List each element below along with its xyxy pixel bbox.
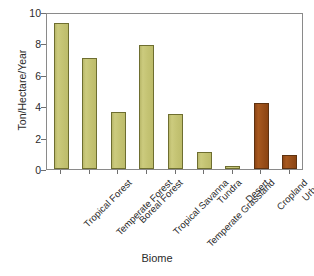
x-tick-mark	[146, 170, 147, 174]
plot-area	[46, 13, 303, 170]
chart-figure: Ton/Hectare/Year 0246810 Tropical Forest…	[0, 0, 314, 276]
y-tick-mark	[41, 170, 46, 171]
x-tick-mark	[260, 170, 261, 174]
bar-tropical-savanna	[139, 45, 154, 169]
x-tick-mark	[289, 170, 290, 174]
y-axis-title: Ton/Hectare/Year	[16, 10, 28, 170]
bar-tropical-forest	[54, 23, 69, 169]
bar-cropland	[254, 103, 269, 169]
y-tick-label: 4	[7, 102, 41, 112]
bar-desert	[225, 166, 240, 169]
x-tick-mark	[89, 170, 90, 174]
bar-boreal-forest	[111, 112, 126, 169]
x-tick-mark	[117, 170, 118, 174]
y-tick-label: 2	[7, 134, 41, 144]
y-tick-label: 8	[7, 39, 41, 49]
bar-temperate-grassland	[168, 114, 183, 169]
y-tick-label: 6	[7, 71, 41, 81]
bar-tundra	[197, 152, 212, 169]
x-tick-mark	[203, 170, 204, 174]
x-tick-mark	[60, 170, 61, 174]
y-tick-label: 0	[7, 165, 41, 175]
bar-urban	[282, 155, 297, 169]
x-axis-title: Biome	[0, 252, 314, 264]
x-tick-mark	[232, 170, 233, 174]
x-tick-mark	[175, 170, 176, 174]
y-tick-label: 10	[7, 8, 41, 18]
bar-temperate-forest	[82, 58, 97, 169]
